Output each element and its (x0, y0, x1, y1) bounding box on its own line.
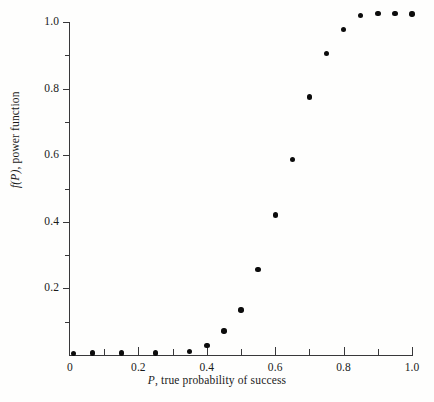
data-point (324, 51, 329, 56)
data-point (238, 307, 243, 312)
x-axis-major-tick (412, 347, 413, 355)
x-axis-title: P, true probability of success (0, 374, 434, 386)
y-axis-title-symbol: f(P) (9, 170, 21, 188)
y-axis-minor-tick (65, 122, 70, 123)
y-axis-tick-label: 0.2 (44, 283, 59, 295)
y-axis-major-tick (63, 155, 70, 156)
y-axis-minor-tick (65, 189, 70, 190)
data-point (90, 350, 95, 355)
x-axis-minor-tick (173, 349, 174, 355)
y-axis-major-tick (63, 89, 70, 90)
data-point (273, 212, 278, 217)
y-axis-tick-label: 0.8 (44, 83, 59, 95)
data-point (307, 94, 312, 99)
x-axis-minor-tick (104, 349, 105, 355)
data-point (187, 349, 192, 354)
data-point (71, 351, 76, 356)
data-point (358, 13, 363, 18)
data-point (375, 11, 380, 16)
data-point (341, 27, 346, 32)
y-axis-minor-tick (65, 322, 70, 323)
x-axis-major-tick (344, 347, 345, 355)
x-axis-tick-label: 0.6 (268, 362, 283, 374)
x-axis-tick-label: 1.0 (405, 362, 420, 374)
data-point (221, 328, 226, 333)
y-axis-tick-label: 1.0 (44, 16, 59, 28)
x-axis-minor-tick (378, 349, 379, 355)
data-point (204, 343, 209, 348)
data-point (153, 350, 158, 355)
x-axis-title-text: , true probability of success (155, 374, 286, 386)
x-axis-major-tick (275, 347, 276, 355)
x-axis-tick-label: 0 (67, 362, 73, 374)
x-axis-minor-tick (309, 349, 310, 355)
x-axis-major-tick (207, 347, 208, 355)
data-point (255, 267, 260, 272)
y-axis-minor-tick (65, 55, 70, 56)
x-axis-tick-label: 0.4 (199, 362, 214, 374)
y-axis-minor-tick (65, 255, 70, 256)
power-function-scatter-figure: 0.20.40.60.81.0 00.20.40.60.81.0 P, true… (0, 0, 434, 402)
x-axis-major-tick (138, 347, 139, 355)
y-axis-major-tick (63, 22, 70, 23)
x-axis-tick-label: 0.2 (131, 362, 146, 374)
x-axis-tick-label: 0.8 (336, 362, 351, 374)
data-point (392, 11, 397, 16)
data-point (409, 11, 414, 16)
data-point (119, 350, 124, 355)
y-axis-title: f(P), power function (9, 91, 21, 188)
y-axis-major-tick (63, 222, 70, 223)
y-axis-major-tick (63, 288, 70, 289)
y-axis-tick-label: 0.6 (44, 149, 59, 161)
y-axis-tick-label: 0.4 (44, 216, 59, 228)
data-point (290, 157, 295, 162)
x-axis-title-symbol: P (148, 374, 155, 386)
plot-area: 0.20.40.60.81.0 00.20.40.60.81.0 (70, 22, 412, 355)
y-axis-title-text: , power function (9, 91, 21, 169)
x-axis-minor-tick (241, 349, 242, 355)
